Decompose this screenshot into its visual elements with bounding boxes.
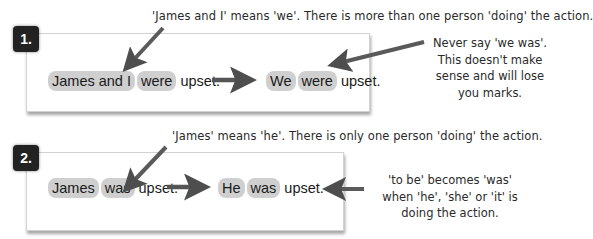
example-2-number-badge: 2. bbox=[13, 145, 39, 171]
verb-highlight: was bbox=[247, 178, 281, 198]
example-1-top-note: 'James and I' means 'we'. There is more … bbox=[152, 8, 593, 24]
verb-highlight: were bbox=[137, 71, 176, 91]
verb-highlight: were bbox=[298, 71, 337, 91]
example-2-top-note: 'James' means 'he'. There is only one pe… bbox=[172, 128, 543, 144]
side-note-line: Never say 'we was'. bbox=[420, 35, 560, 52]
sentence-rest: upset. bbox=[137, 178, 181, 198]
side-note-line: sense and will lose bbox=[420, 68, 560, 85]
sentence-rest: upset. bbox=[178, 71, 222, 91]
side-note-line: when 'he', 'she' or 'it' is bbox=[370, 189, 530, 206]
example-2-corrected-sentence: He was upset. bbox=[218, 178, 326, 198]
subject-highlight: We bbox=[266, 71, 296, 91]
verb-highlight: was bbox=[101, 178, 135, 198]
side-note-line: you marks. bbox=[420, 85, 560, 102]
example-2-side-note: 'to be' becomes 'was' when 'he', 'she' o… bbox=[370, 172, 530, 222]
subject-highlight: He bbox=[218, 178, 245, 198]
example-1-side-note: Never say 'we was'. This doesn't make se… bbox=[420, 35, 560, 101]
side-note-line: This doesn't make bbox=[420, 52, 560, 69]
example-1-original-sentence: James and I were upset. bbox=[48, 71, 222, 91]
example-2-original-sentence: James was upset. bbox=[48, 178, 180, 198]
subject-highlight: James and I bbox=[48, 71, 135, 91]
sentence-rest: upset. bbox=[282, 178, 326, 198]
side-note-line: doing the action. bbox=[370, 205, 530, 222]
sentence-rest: upset. bbox=[339, 71, 383, 91]
example-1-corrected-sentence: We were upset. bbox=[266, 71, 382, 91]
side-note-line: 'to be' becomes 'was' bbox=[370, 172, 530, 189]
example-1-number-badge: 1. bbox=[13, 26, 39, 52]
subject-highlight: James bbox=[48, 178, 99, 198]
